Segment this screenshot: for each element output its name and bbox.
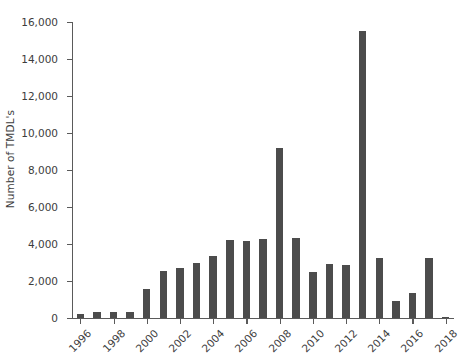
- y-axis-tick: 0: [67, 318, 72, 319]
- bar: [376, 258, 384, 318]
- x-axis-tick: [213, 319, 214, 324]
- y-axis-tick: 14,000: [67, 59, 72, 60]
- x-axis-tick-label: 2006: [232, 327, 259, 354]
- bar: [259, 239, 267, 318]
- x-axis-tick: [412, 319, 413, 324]
- x-axis-tick-label: 1996: [66, 327, 93, 354]
- x-axis-tick-label: 2010: [299, 327, 326, 354]
- bar: [143, 289, 151, 318]
- x-axis-tick: [346, 319, 347, 324]
- bar: [209, 256, 217, 318]
- x-axis-tick: [246, 319, 247, 324]
- y-axis-tick: 10,000: [67, 133, 72, 134]
- x-axis-tick-label: 2012: [332, 327, 359, 354]
- y-axis-line: [72, 22, 73, 318]
- y-axis-title: Number of TMDL's: [0, 0, 20, 318]
- y-axis-tick: 12,000: [67, 96, 72, 97]
- bar: [193, 263, 201, 319]
- bar: [160, 271, 168, 318]
- y-axis-tick: 6,000: [67, 207, 72, 208]
- x-axis-tick: [446, 319, 447, 324]
- bar: [77, 314, 85, 318]
- x-axis-tick-label: 2008: [266, 327, 293, 354]
- x-axis-line: [72, 318, 454, 319]
- bar: [342, 265, 350, 318]
- y-axis-tick: 16,000: [67, 22, 72, 23]
- x-axis-tick: [280, 319, 281, 324]
- bar: [243, 241, 251, 318]
- x-axis-tick: [180, 319, 181, 324]
- x-axis-tick-label: 2016: [399, 327, 426, 354]
- x-axis-tick: [313, 319, 314, 324]
- bar: [110, 312, 118, 318]
- bar: [126, 312, 134, 318]
- bar: [359, 31, 367, 318]
- y-axis-tick: 8,000: [67, 170, 72, 171]
- bar: [226, 240, 234, 318]
- bar: [409, 293, 417, 318]
- y-axis-tick-label: 8,000: [28, 164, 58, 176]
- x-axis-tick-label: 2004: [199, 327, 226, 354]
- x-axis-tick: [80, 319, 81, 324]
- bar: [392, 301, 400, 318]
- y-axis-tick-label: 0: [51, 312, 58, 324]
- x-axis-tick-label: 2018: [432, 327, 459, 354]
- y-axis-tick-label: 4,000: [28, 238, 58, 250]
- plot-area: 02,0004,0006,0008,00010,00012,00014,0001…: [72, 22, 454, 318]
- bar: [292, 238, 300, 318]
- y-axis-tick-label: 12,000: [21, 90, 58, 102]
- bar: [309, 272, 317, 318]
- y-axis-tick-label: 10,000: [21, 127, 58, 139]
- x-axis-tick-label: 2014: [365, 327, 392, 354]
- y-axis-tick-label: 14,000: [21, 53, 58, 65]
- x-axis-tick: [147, 319, 148, 324]
- bar: [425, 258, 433, 318]
- y-axis-tick-label: 16,000: [21, 16, 58, 28]
- y-axis-tick: 2,000: [67, 281, 72, 282]
- bar: [326, 264, 334, 318]
- bar: [93, 312, 101, 318]
- y-axis-tick: 4,000: [67, 244, 72, 245]
- y-axis-title-label: Number of TMDL's: [4, 110, 16, 208]
- x-axis-tick: [379, 319, 380, 324]
- x-axis-tick-label: 2000: [133, 327, 160, 354]
- y-axis-tick-label: 6,000: [28, 201, 58, 213]
- x-axis-tick: [114, 319, 115, 324]
- bar: [176, 268, 184, 318]
- x-axis-tick-label: 1998: [100, 327, 127, 354]
- bar-chart: Number of TMDL's 02,0004,0006,0008,00010…: [0, 0, 465, 361]
- bar: [276, 148, 284, 318]
- bar: [442, 317, 450, 318]
- x-axis-tick-label: 2002: [166, 327, 193, 354]
- y-axis-tick-label: 2,000: [28, 275, 58, 287]
